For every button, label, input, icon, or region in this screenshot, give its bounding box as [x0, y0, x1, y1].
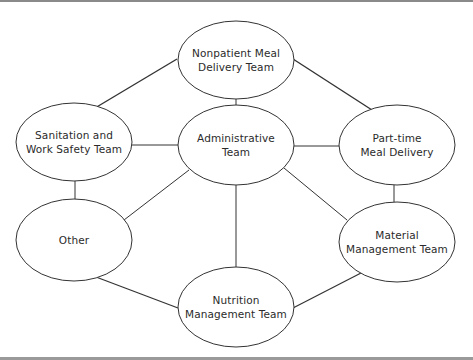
node-label-nutrition-line1: Nutrition — [213, 294, 260, 306]
node-ellipse-material — [339, 202, 455, 282]
node-label-parttime-line1: Part-time — [372, 132, 421, 144]
node-ellipse-administrative — [178, 105, 294, 185]
node-material: MaterialManagement Team — [339, 202, 455, 282]
node-parttime: Part-timeMeal Delivery — [339, 105, 455, 185]
edge-nonpatient-sanitation — [95, 59, 177, 108]
team-nodes: Nonpatient MealDelivery TeamSanitation a… — [16, 21, 455, 347]
edge-material-nutrition — [293, 273, 361, 308]
edge-nonpatient-parttime — [293, 59, 372, 110]
node-nonpatient: Nonpatient MealDelivery Team — [178, 21, 294, 99]
node-ellipse-parttime — [339, 105, 455, 185]
team-network-diagram: Nonpatient MealDelivery TeamSanitation a… — [0, 0, 473, 360]
edge-administrative-material — [284, 168, 347, 220]
node-nutrition: NutritionManagement Team — [178, 267, 294, 347]
node-ellipse-nonpatient — [178, 21, 294, 99]
node-label-sanitation-line2: Work Safety Team — [26, 143, 122, 155]
edge-other-nutrition — [96, 277, 178, 308]
node-ellipse-sanitation — [16, 103, 132, 181]
node-label-parttime-line2: Meal Delivery — [360, 146, 433, 158]
node-label-nonpatient-line1: Nonpatient Meal — [192, 47, 280, 59]
node-label-sanitation-line1: Sanitation and — [35, 129, 113, 141]
edge-administrative-other — [124, 170, 189, 220]
node-label-administrative-line1: Administrative — [197, 132, 275, 144]
node-sanitation: Sanitation andWork Safety Team — [16, 103, 132, 181]
node-other: Other — [16, 199, 132, 281]
node-label-material-line2: Management Team — [346, 243, 448, 255]
node-label-nutrition-line2: Management Team — [185, 308, 287, 320]
node-label-administrative-line2: Team — [221, 146, 250, 158]
node-label-nonpatient-line2: Delivery Team — [198, 61, 274, 73]
node-administrative: AdministrativeTeam — [178, 105, 294, 185]
node-label-other-line1: Other — [59, 234, 90, 246]
node-ellipse-nutrition — [178, 267, 294, 347]
node-label-material-line1: Material — [375, 229, 418, 241]
